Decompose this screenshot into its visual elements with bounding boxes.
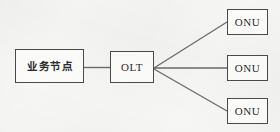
node-onu-1-label: ONU (235, 17, 261, 28)
network-topology-diagram: 业务节点 OLT ONU ONU ONU (0, 0, 280, 132)
connector-olt-to-onu-3 (154, 69, 227, 111)
node-service-node-label: 业务节点 (26, 61, 74, 72)
node-onu-2-label: ONU (235, 63, 261, 74)
node-onu-3-label: ONU (235, 106, 261, 117)
node-olt[interactable]: OLT (110, 51, 154, 83)
node-service-node[interactable]: 业务节点 (15, 49, 84, 83)
node-onu-3[interactable]: ONU (227, 98, 268, 124)
node-onu-2[interactable]: ONU (227, 55, 268, 81)
connector-olt-to-onu-1 (154, 22, 227, 68)
node-onu-1[interactable]: ONU (227, 9, 268, 35)
node-olt-label: OLT (121, 62, 143, 73)
